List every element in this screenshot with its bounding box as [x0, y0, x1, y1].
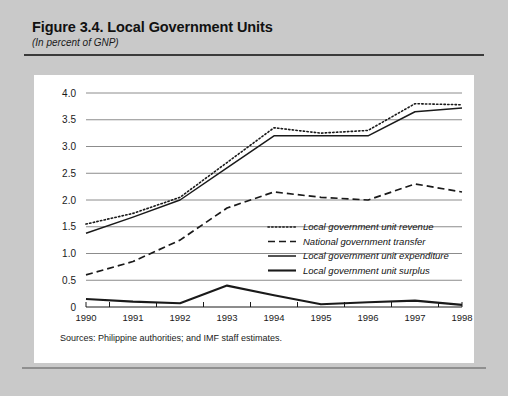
y-axis-tick-labels: 00.51.01.52.02.53.03.54.0 [62, 88, 76, 313]
x-axis-tick-label: 1990 [75, 312, 96, 323]
x-axis-tick-label: 1992 [169, 312, 190, 323]
y-axis-tick-label: 3.0 [62, 141, 76, 152]
x-axis-tick-label: 1994 [263, 312, 284, 323]
line-chart: 00.51.01.52.02.53.03.54.0 19901991199219… [34, 75, 474, 325]
y-axis-tick-label: 1.5 [62, 221, 76, 232]
figure-card: Figure 3.4. Local Government Units (In p… [22, 13, 486, 375]
x-axis-tick-label: 1993 [216, 312, 237, 323]
legend-label: National government transfer [303, 236, 426, 247]
plot-panel: 00.51.01.52.02.53.03.54.0 19901991199219… [34, 75, 474, 363]
y-axis-tick-label: 1.0 [62, 248, 76, 259]
legend-label: Local government unit expenditure [303, 250, 449, 261]
series-line [86, 104, 462, 224]
x-axis-tick-label: 1995 [310, 312, 331, 323]
y-axis-tick-label: 2.5 [62, 168, 76, 179]
chart-area: 00.51.01.52.02.53.03.54.0 19901991199219… [34, 75, 474, 325]
chart-legend: Local government unit revenueNational go… [268, 221, 449, 276]
legend-label: Local government unit surplus [303, 265, 430, 276]
legend-label: Local government unit revenue [303, 221, 433, 232]
series-line [86, 286, 462, 305]
x-axis-tick-label: 1997 [404, 312, 425, 323]
source-note: Sources: Philippine authorities; and IMF… [60, 333, 282, 343]
y-axis-tick-label: 3.5 [62, 114, 76, 125]
footer-divider [22, 367, 486, 369]
x-axis-tick-label: 1998 [451, 312, 472, 323]
figure-subtitle: (In percent of GNP) [32, 37, 476, 48]
series-line [86, 108, 462, 233]
x-axis-tick-label: 1991 [122, 312, 143, 323]
y-axis-tick-label: 2.0 [62, 195, 76, 206]
x-axis-tick-label: 1996 [357, 312, 378, 323]
y-axis-tick-label: 0 [70, 302, 76, 313]
figure-header: Figure 3.4. Local Government Units (In p… [22, 13, 486, 48]
page-title: Figure 3.4. Local Government Units [32, 19, 476, 35]
x-axis-tick-labels: 199019911992199319941995199619971998 [75, 312, 472, 323]
y-axis-tick-label: 0.5 [62, 275, 76, 286]
header-divider [24, 54, 484, 56]
y-axis-tick-label: 4.0 [62, 88, 76, 99]
